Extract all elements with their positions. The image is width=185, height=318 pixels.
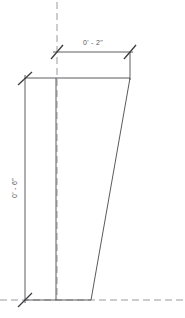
tapered-profile-outline[interactable]	[56, 78, 130, 300]
tapered-shape[interactable]	[56, 78, 130, 300]
centerlines	[0, 2, 185, 300]
horizontal-dimension[interactable]: 0' - 2"	[51, 39, 136, 80]
horizontal-dimension-label: 0' - 2"	[83, 39, 103, 46]
drawing-svg: 0' - 2" 0' - 6"	[0, 0, 185, 318]
vertical-dimension[interactable]: 0' - 6"	[11, 72, 56, 307]
vertical-dimension-label: 0' - 6"	[11, 178, 18, 198]
cad-drawing-canvas[interactable]: 0' - 2" 0' - 6"	[0, 0, 185, 318]
